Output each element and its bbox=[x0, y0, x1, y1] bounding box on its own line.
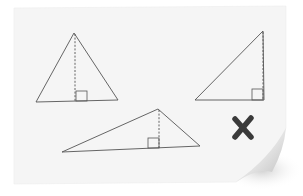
paper-sheet bbox=[14, 6, 286, 184]
worksheet-figure: Worksheet showing three triangles with d… bbox=[0, 0, 303, 196]
worksheet-canvas bbox=[0, 0, 303, 196]
